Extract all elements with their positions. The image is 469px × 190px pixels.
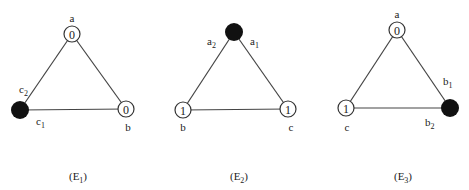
label-b: b <box>125 121 131 133</box>
label-b: b <box>180 121 186 133</box>
node-a-value: 0 <box>394 24 400 38</box>
label-c: c <box>289 121 294 133</box>
node-b-value: 0 <box>123 103 129 117</box>
graph-figure: 0 0 a b c2 c1 (E1) 1 1 a2 a1 b c (E2) 0 … <box>0 0 469 190</box>
caption-e3: (E3) <box>394 170 412 185</box>
node-a-filled <box>225 23 243 41</box>
diagram-e3: 0 1 a c b1 b2 (E3) <box>338 8 459 185</box>
caption-e1: (E1) <box>69 170 87 185</box>
label-c1: c1 <box>36 115 45 130</box>
label-a: a <box>70 12 75 24</box>
node-b-value: 1 <box>180 104 186 118</box>
label-a: a <box>395 8 400 20</box>
node-c-filled <box>11 101 29 119</box>
node-b-filled <box>441 99 459 117</box>
node-a-value: 0 <box>69 28 75 42</box>
diagram-e2: 1 1 a2 a1 b c (E2) <box>175 23 296 185</box>
label-b1: b1 <box>443 75 453 90</box>
caption-e2: (E2) <box>230 170 248 185</box>
label-a2: a2 <box>207 35 216 50</box>
label-c2: c2 <box>19 83 28 98</box>
node-c-value: 1 <box>343 102 349 116</box>
diagram-e1: 0 0 a b c2 c1 (E1) <box>11 12 134 185</box>
label-a1: a1 <box>250 35 259 50</box>
label-c: c <box>345 121 350 133</box>
label-b2: b2 <box>425 116 435 131</box>
node-c-value: 1 <box>285 103 291 117</box>
